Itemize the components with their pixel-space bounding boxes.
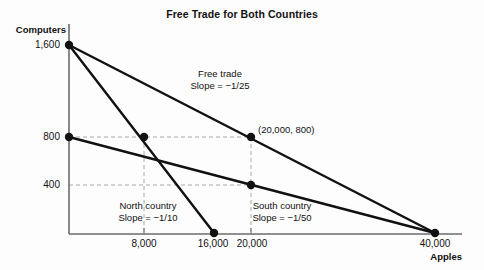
annotation-south-country-slope: Slope = −1/50 <box>252 212 311 224</box>
y-tick-label-1600: 1,600 <box>2 39 60 50</box>
annotation-free-trade: Free trade Slope = −1/25 <box>190 68 249 91</box>
y-axis-title: Computers <box>0 24 66 35</box>
marker-20000-800 <box>247 133 255 141</box>
marker-40000-0 <box>431 229 439 237</box>
annotation-point-20000-800: (20,000, 800) <box>258 124 315 136</box>
annotation-south-country: South country Slope = −1/50 <box>252 200 311 223</box>
marker-0-800 <box>65 133 73 141</box>
y-tick-label-400: 400 <box>2 179 60 190</box>
annotation-north-country: North country Slope = −1/10 <box>118 200 177 223</box>
chart-plot-area <box>0 0 484 270</box>
y-tick-label-800: 800 <box>2 131 60 142</box>
x-axis-title: Apples <box>330 251 462 262</box>
x-axis-ticks <box>144 228 251 234</box>
chart-figure: Free Trade for Both Countries <box>0 0 484 270</box>
marker-20000-400 <box>247 181 255 189</box>
annotation-north-country-slope: Slope = −1/10 <box>118 212 177 224</box>
marker-16000-0 <box>210 229 218 237</box>
x-tick-label-8000: 8,000 <box>131 238 156 249</box>
annotation-south-country-name: South country <box>252 200 311 212</box>
marker-0-1600 <box>65 41 73 49</box>
annotation-free-trade-slope: Slope = −1/25 <box>190 80 249 92</box>
x-tick-label-16000: 16,000 <box>198 238 229 249</box>
annotation-north-country-name: North country <box>118 200 177 212</box>
annotation-free-trade-name: Free trade <box>190 68 249 80</box>
x-tick-label-40000: 40,000 <box>420 238 451 249</box>
x-tick-label-20000: 20,000 <box>237 238 268 249</box>
marker-8000-800 <box>140 133 148 141</box>
